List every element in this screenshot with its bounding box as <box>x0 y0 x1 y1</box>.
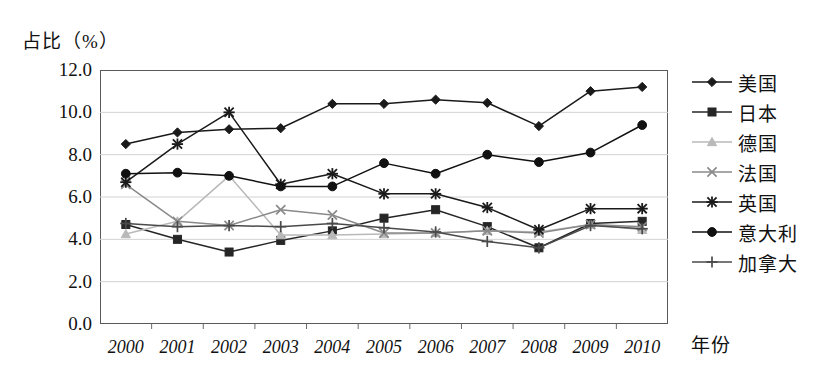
x-tick-label: 2005 <box>356 338 412 356</box>
x-tick-label: 2008 <box>511 338 567 356</box>
legend-marker-diamond-icon <box>690 72 734 92</box>
data-point <box>121 139 130 148</box>
data-point <box>121 169 130 178</box>
data-point <box>483 150 492 159</box>
data-point <box>379 99 388 108</box>
data-point <box>430 188 441 199</box>
data-point <box>431 95 440 104</box>
legend-label: 德国 <box>738 129 778 156</box>
x-tick-label: 2001 <box>149 338 205 356</box>
data-point <box>586 148 595 157</box>
legend-label: 美国 <box>738 69 778 96</box>
x-tick-marks <box>152 324 617 329</box>
x-tick-label: 2006 <box>408 338 464 356</box>
legend-label: 加拿大 <box>738 249 798 276</box>
data-point <box>535 158 544 167</box>
data-point <box>173 168 182 177</box>
series-美国 <box>121 82 647 148</box>
data-point <box>637 203 648 214</box>
data-point <box>482 236 493 247</box>
legend-item-意大利[interactable]: 意大利 <box>690 218 798 246</box>
data-point <box>533 224 544 235</box>
data-point <box>276 182 285 191</box>
legend-marker-cross-icon <box>690 162 734 182</box>
legend-marker-plus-icon <box>690 252 734 272</box>
data-point <box>585 203 596 214</box>
series-layer <box>120 82 648 256</box>
data-point <box>638 121 647 130</box>
data-point <box>328 99 337 108</box>
legend-label: 法国 <box>738 159 778 186</box>
legend-marker-star-icon <box>690 192 734 212</box>
x-tick-label: 2004 <box>304 338 360 356</box>
y-tick-label: 2.0 <box>34 272 92 291</box>
x-tick-label: 2000 <box>98 338 154 356</box>
legend-item-日本[interactable]: 日本 <box>690 98 798 126</box>
legend-marker-circle-icon <box>690 222 734 242</box>
y-tick-label: 12.0 <box>34 60 92 79</box>
data-point <box>638 82 647 91</box>
legend-marker-triangle-icon <box>690 132 734 152</box>
data-point <box>276 124 285 133</box>
data-point <box>378 188 389 199</box>
data-point <box>432 206 440 214</box>
data-point <box>380 159 389 168</box>
legend-item-英国[interactable]: 英国 <box>690 188 798 216</box>
x-tick-label: 2009 <box>563 338 619 356</box>
legend-label: 意大利 <box>738 219 798 246</box>
data-point <box>380 214 388 222</box>
data-point <box>173 128 182 137</box>
x-tick-label: 2007 <box>459 338 515 356</box>
data-point <box>172 138 183 149</box>
y-tick-label: 0.0 <box>34 314 92 333</box>
legend-item-德国[interactable]: 德国 <box>690 128 798 156</box>
data-point <box>327 168 338 179</box>
y-tick-label: 10.0 <box>34 102 92 121</box>
legend-item-加拿大[interactable]: 加拿大 <box>690 248 798 276</box>
data-point <box>586 87 595 96</box>
data-point <box>223 107 234 118</box>
data-point <box>534 121 543 130</box>
data-point <box>482 202 493 213</box>
data-point <box>173 235 181 243</box>
data-point <box>483 98 492 107</box>
x-tick-label: 2010 <box>614 338 670 356</box>
y-tick-label: 8.0 <box>34 145 92 164</box>
legend-marker-square-icon <box>690 102 734 122</box>
legend-label: 日本 <box>738 99 778 126</box>
legend-item-美国[interactable]: 美国 <box>690 68 798 96</box>
legend-item-法国[interactable]: 法国 <box>690 158 798 186</box>
legend-label: 英国 <box>738 189 778 216</box>
y-tick-label: 4.0 <box>34 229 92 248</box>
data-point <box>225 248 233 256</box>
data-point <box>328 182 337 191</box>
chart-figure: 占比（%） 年份 0.02.04.06.08.010.012.0 2000200… <box>0 0 830 391</box>
x-tick-label: 2003 <box>253 338 309 356</box>
data-point <box>224 125 233 134</box>
y-tick-label: 6.0 <box>34 187 92 206</box>
x-tick-label: 2002 <box>201 338 257 356</box>
data-point <box>431 169 440 178</box>
legend: 美国日本德国法国英国意大利加拿大 <box>690 68 798 276</box>
data-point <box>225 171 234 180</box>
